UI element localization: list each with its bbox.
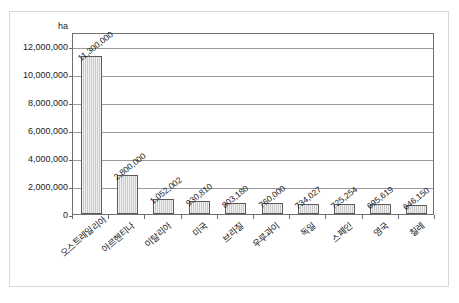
y-axis-tick-label: 10,000,000 [23, 70, 68, 80]
x-axis-tick [398, 215, 399, 219]
x-axis-tick [362, 215, 363, 219]
x-axis-tick [181, 215, 182, 219]
bar[interactable] [81, 56, 102, 214]
x-axis-tick [289, 215, 290, 219]
x-axis-tick [108, 215, 109, 219]
y-axis-tick [69, 160, 73, 161]
plot-area: 11,300,0002,800,0001,052,002930,810803,1… [72, 33, 434, 215]
bar[interactable] [117, 175, 138, 214]
y-axis-tick [69, 48, 73, 49]
y-axis-tick-label: 8,000,000 [28, 98, 68, 108]
x-axis-tick [72, 215, 73, 219]
y-axis-tick [69, 104, 73, 105]
gridline [73, 76, 433, 77]
y-axis-tick-label: 0 [63, 210, 68, 220]
y-axis-tick-label: 12,000,000 [23, 42, 68, 52]
gridline [73, 104, 433, 105]
y-axis-tick-label: 4,000,000 [28, 154, 68, 164]
y-axis-tick-label: 2,000,000 [28, 182, 68, 192]
y-axis-unit-label: ha [0, 21, 68, 31]
x-axis-tick [217, 215, 218, 219]
x-axis-tick [253, 215, 254, 219]
x-axis-tick [325, 215, 326, 219]
y-axis: 02,000,0004,000,0006,000,0008,000,00010,… [0, 33, 68, 215]
y-axis-tick-label: 6,000,000 [28, 126, 68, 136]
chart-page: ha 02,000,0004,000,0006,000,0008,000,000… [0, 0, 459, 303]
y-axis-tick [69, 76, 73, 77]
x-axis-tick [434, 215, 435, 219]
gridline [73, 48, 433, 49]
x-axis-tick [144, 215, 145, 219]
y-axis-tick [69, 132, 73, 133]
gridline [73, 132, 433, 133]
y-axis-tick [69, 188, 73, 189]
